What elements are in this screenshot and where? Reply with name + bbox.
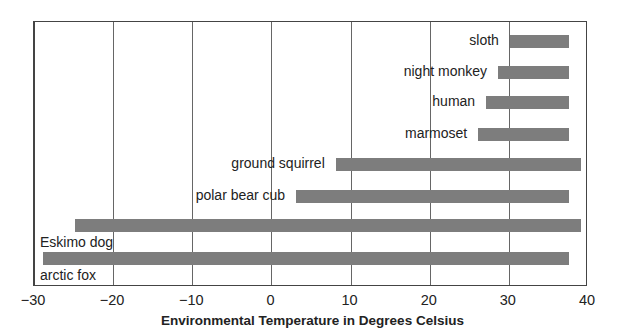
x-tick-label: −20 xyxy=(100,292,125,308)
gridline xyxy=(351,22,352,285)
bar-night-monkey xyxy=(498,66,569,79)
gridline xyxy=(113,22,114,285)
bar-ground-squirrel xyxy=(336,158,581,171)
x-tick-label: −30 xyxy=(21,292,46,308)
bar-label: marmoset xyxy=(405,125,467,141)
x-tick-label: 40 xyxy=(579,292,595,308)
bar-label: human xyxy=(432,93,475,109)
gridline xyxy=(430,22,431,285)
bar-sloth xyxy=(510,35,569,48)
x-tick-label: 0 xyxy=(266,292,274,308)
bar-eskimo-dog xyxy=(75,219,582,232)
bar-label: Eskimo dog xyxy=(40,234,113,250)
x-axis-label: Environmental Temperature in Degrees Cel… xyxy=(0,313,617,328)
bar-human xyxy=(486,96,569,109)
x-tick-label: −10 xyxy=(179,292,204,308)
bar-label: night monkey xyxy=(404,63,487,79)
x-tick-label: 20 xyxy=(421,292,437,308)
gridline xyxy=(509,22,510,285)
bar-label: ground squirrel xyxy=(231,155,324,171)
x-tick-label: 30 xyxy=(500,292,516,308)
bar-label: polar bear cub xyxy=(196,187,286,203)
x-tick-label: 10 xyxy=(341,292,357,308)
gridline xyxy=(271,22,272,285)
plot-area: slothnight monkeyhumanmarmosetground squ… xyxy=(33,21,587,286)
bar-label: arctic fox xyxy=(40,267,96,283)
bar-arctic-fox xyxy=(43,252,569,265)
bar-label: sloth xyxy=(469,32,499,48)
bar-marmoset xyxy=(478,128,569,141)
gridline xyxy=(192,22,193,285)
bar-polar-bear-cub xyxy=(296,190,569,203)
